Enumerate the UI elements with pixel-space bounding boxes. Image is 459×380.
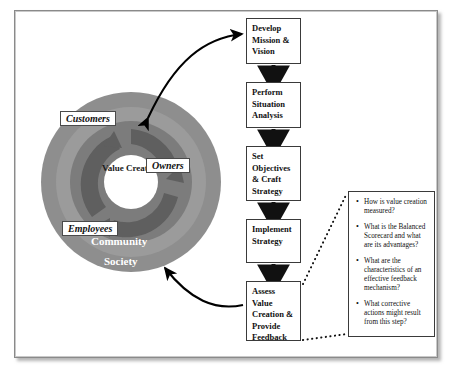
flow-step-implement[interactable]: Implement Strategy — [246, 219, 301, 263]
flow-step-perform[interactable]: Perform Situation Analysis — [246, 82, 301, 128]
flow-step-set-objectives[interactable]: Set Objectives & Craft Strategy — [246, 146, 301, 201]
callout-questions-box: How is value creation measured? What is … — [348, 191, 435, 337]
ring-label-community: Community — [91, 235, 147, 247]
flow-step-develop[interactable]: Develop Mission & Vision — [246, 18, 301, 64]
callout-question-list: How is value creation measured? What is … — [353, 198, 430, 327]
callout-question: How is value creation measured? — [364, 198, 430, 216]
stakeholder-label-owners: Owners — [146, 158, 190, 173]
stakeholder-label-employees: Employees — [62, 221, 118, 236]
diagram-canvas: Value Creation Customers Owners Employee… — [0, 0, 459, 380]
callout-question: What corrective actions might result fro… — [364, 300, 430, 327]
flow-step-assess[interactable]: Assess Value Creation & Provide Feedback — [246, 281, 301, 341]
ring-label-society: Society — [104, 255, 138, 267]
callout-question: What are the characteristics of an effec… — [364, 257, 430, 293]
callout-question: What is the Balanced Scorecard and what … — [364, 223, 430, 250]
stakeholder-label-customers: Customers — [60, 111, 116, 126]
